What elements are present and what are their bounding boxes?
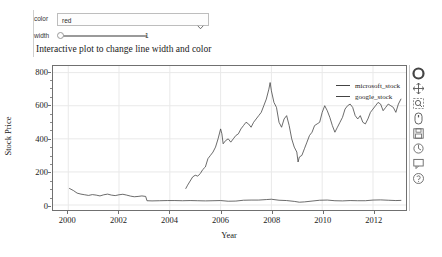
y-axis-label: Stock Price [3,117,13,156]
legend-swatch [336,96,350,97]
x-tick-mark [221,211,222,214]
y-minor-tick [50,88,52,89]
box-zoom-tool-icon[interactable] [411,96,426,111]
x-tick-label: 2008 [263,215,280,225]
y-tick-label: 400 [24,134,48,144]
legend-swatch [336,85,350,86]
y-minor-tick [50,156,52,157]
x-tick-label: 2010 [314,215,331,225]
chevron-down-icon [197,17,204,24]
y-tick-label: 200 [24,167,48,177]
legend-label: google_stock [355,93,392,101]
x-tick-mark [67,211,68,214]
y-minor-tick [50,189,52,190]
x-tick-label: 2000 [59,215,76,225]
color-select-value: red [62,14,71,27]
x-tick-label: 2002 [110,215,127,225]
widget-panel: color red width 1 [34,12,209,42]
plot-title: Interactive plot to change line width an… [36,44,211,54]
y-minor-tick [50,114,52,115]
x-tick-mark [323,211,324,214]
y-tick-mark [48,105,51,106]
reset-tool-icon[interactable] [411,141,426,156]
slider-track[interactable] [59,35,147,37]
y-minor-tick [50,147,52,148]
wheel-zoom-tool-icon[interactable] [411,111,426,126]
x-tick-label: 2012 [365,215,382,225]
x-tick-mark [169,211,170,214]
x-tick-label: 2004 [161,215,178,225]
legend-label: microsoft_stock [355,82,400,90]
plot-toolbar [409,65,427,211]
y-tick-label: 600 [24,100,48,110]
y-minor-tick [50,181,52,182]
y-minor-tick [50,164,52,165]
pan-tool-icon[interactable] [411,81,426,96]
slider-handle[interactable] [57,32,64,39]
y-tick-mark [48,72,51,73]
color-select-row: color red [34,12,209,26]
y-tick-label: 800 [24,67,48,77]
help-icon[interactable] [411,171,426,186]
color-select[interactable]: red [57,13,209,26]
bokeh-logo-icon [411,66,426,81]
x-tick-mark [118,211,119,214]
y-axis-ticklabels: 0200400600800 [22,58,48,218]
y-minor-tick [50,122,52,123]
slider-value: 1 [145,29,149,42]
y-minor-tick [50,130,52,131]
width-slider[interactable]: 1 [57,29,209,42]
x-tick-mark [374,211,375,214]
y-tick-mark [48,206,51,207]
y-tick-mark [48,139,51,140]
width-slider-label: width [34,29,57,43]
x-axis-label: Year [221,230,237,240]
bokeh-app: color red width 1 Interactive plot to ch… [0,0,442,257]
width-slider-row: width 1 [34,29,209,42]
hover-tool-icon[interactable] [411,156,426,171]
plot-area: Stock Price 0200400600800 20002002200420… [0,58,442,257]
y-minor-tick [50,97,52,98]
y-tick-mark [48,172,51,173]
color-select-label: color [34,12,57,26]
y-minor-tick [50,198,52,199]
save-tool-icon[interactable] [411,126,426,141]
plot-frame[interactable]: microsoft_stock google_stock [52,65,407,211]
y-minor-tick [50,80,52,81]
x-tick-mark [272,211,273,214]
y-tick-label: 0 [24,201,48,211]
x-tick-label: 2006 [212,215,229,225]
x-axis-ticklabels: 2000200220042006200820102012 [0,215,442,229]
